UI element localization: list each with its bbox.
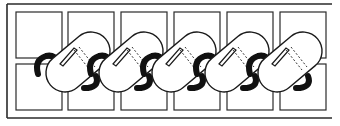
chain-link-diagram <box>0 0 340 126</box>
grid-cell <box>16 12 62 58</box>
